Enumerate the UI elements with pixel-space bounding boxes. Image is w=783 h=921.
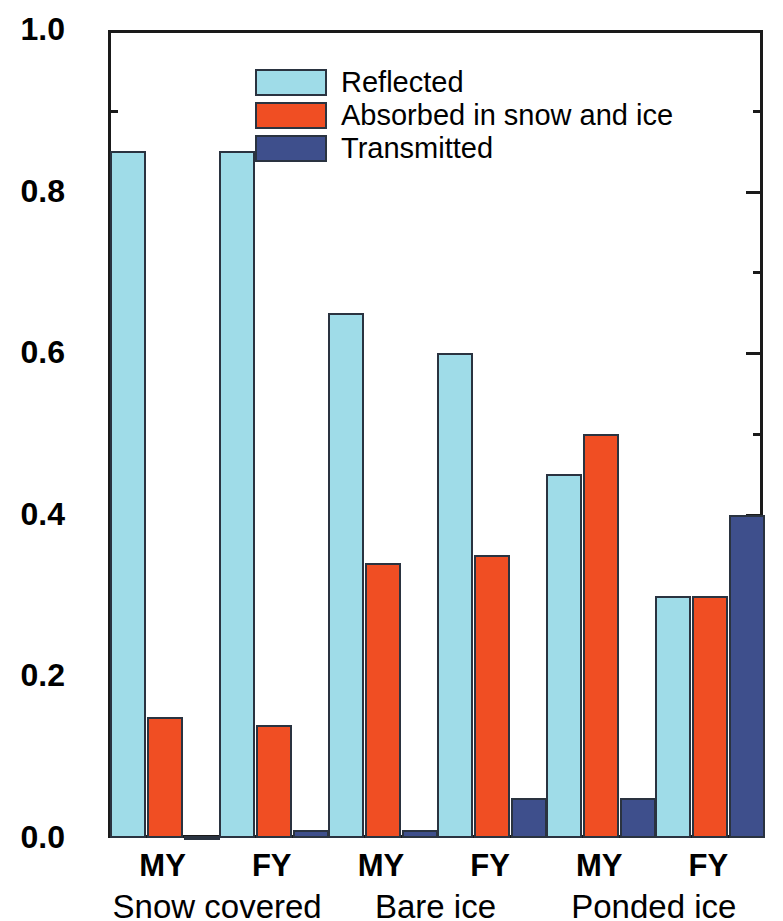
y-tick-label: 0.8 xyxy=(0,175,65,207)
y-tick-label: 0.0 xyxy=(0,821,65,853)
bar xyxy=(328,313,364,838)
y-tick-minor xyxy=(108,110,118,113)
bar xyxy=(110,151,146,838)
bar xyxy=(293,830,329,838)
bar xyxy=(437,353,473,838)
bar xyxy=(546,474,582,838)
bar xyxy=(219,151,255,838)
bar xyxy=(583,434,619,838)
y-tick-major-right xyxy=(746,352,763,355)
chart-legend: Reflected Absorbed in snow and ice Trans… xyxy=(255,66,615,165)
legend-swatch-absorbed xyxy=(255,102,327,129)
legend-label-absorbed: Absorbed in snow and ice xyxy=(341,101,673,130)
y-tick-minor-right xyxy=(753,110,763,113)
bar xyxy=(729,515,765,838)
x-group-label: Ponded ice xyxy=(504,888,783,921)
legend-swatch-reflected xyxy=(255,69,327,96)
bar xyxy=(184,836,220,840)
y-tick-minor-right xyxy=(753,271,763,274)
bar xyxy=(692,596,728,838)
bar xyxy=(620,798,656,838)
x-tick-label: FY xyxy=(430,848,550,884)
legend-label-transmitted: Transmitted xyxy=(341,134,493,163)
legend-label-reflected: Reflected xyxy=(341,68,464,97)
legend-item-reflected: Reflected xyxy=(255,66,615,99)
x-tick-label: MY xyxy=(539,848,659,884)
legend-item-absorbed: Absorbed in snow and ice xyxy=(255,99,615,132)
bar xyxy=(511,798,547,838)
bar xyxy=(402,830,438,838)
y-tick-label: 0.4 xyxy=(0,498,65,530)
y-tick-label: 0.2 xyxy=(0,659,65,691)
y-tick-label: 0.6 xyxy=(0,336,65,368)
x-tick-label: FY xyxy=(212,848,332,884)
bar xyxy=(655,596,691,838)
bar xyxy=(474,555,510,838)
y-tick-label: 1.0 xyxy=(0,13,65,45)
legend-item-transmitted: Transmitted xyxy=(255,132,615,165)
bar xyxy=(147,717,183,838)
x-tick-label: FY xyxy=(648,848,768,884)
legend-swatch-transmitted xyxy=(255,135,327,162)
y-tick-minor-right xyxy=(753,433,763,436)
chart-figure: Fraction 0.00.20.40.60.81.0 Reflected Ab… xyxy=(0,0,783,921)
x-tick-label: MY xyxy=(321,848,441,884)
y-tick-major-right xyxy=(746,191,763,194)
bar xyxy=(365,563,401,838)
bar xyxy=(256,725,292,838)
x-tick-label: MY xyxy=(103,848,223,884)
